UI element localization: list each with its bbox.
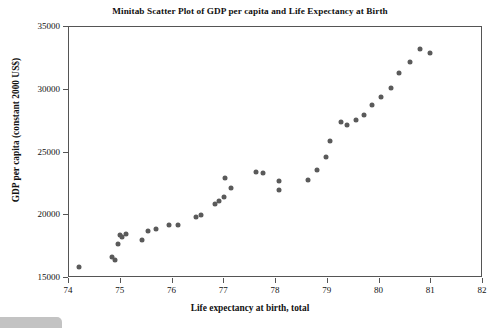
data-point [345, 122, 350, 127]
data-point [123, 232, 128, 237]
data-point [339, 120, 344, 125]
x-tick-mark [430, 278, 431, 283]
x-tick-mark [120, 278, 121, 283]
data-point [407, 59, 412, 64]
data-point [306, 178, 311, 183]
taskbar-nub [0, 317, 62, 328]
x-tick-label: 76 [152, 285, 192, 295]
x-tick-label: 82 [462, 285, 500, 295]
plot-area [68, 26, 482, 277]
x-tick-label: 75 [100, 285, 140, 295]
chart-title: Minitab Scatter Plot of GDP per capita a… [0, 6, 500, 16]
x-tick-mark [379, 278, 380, 283]
scatter-chart: Minitab Scatter Plot of GDP per capita a… [0, 0, 500, 328]
data-point [254, 169, 259, 174]
x-tick-mark [327, 278, 328, 283]
data-point [277, 187, 282, 192]
data-point [199, 213, 204, 218]
x-axis-title: Life expectancy at birth, total [0, 303, 500, 313]
data-point [140, 238, 145, 243]
x-tick-label: 78 [255, 285, 295, 295]
data-point [77, 264, 82, 269]
data-point [388, 86, 393, 91]
x-tick-mark [68, 278, 69, 283]
data-point [217, 198, 222, 203]
data-point [167, 223, 172, 228]
x-tick-label: 80 [359, 285, 399, 295]
data-point [112, 257, 117, 262]
data-point [361, 112, 366, 117]
y-tick-label: 15000 [14, 272, 60, 282]
data-point [327, 138, 332, 143]
data-point [145, 228, 150, 233]
x-tick-mark [482, 278, 483, 283]
x-tick-mark [223, 278, 224, 283]
x-tick-label: 81 [410, 285, 450, 295]
data-point [223, 176, 228, 181]
data-point [353, 117, 358, 122]
data-point [175, 222, 180, 227]
x-tick-label: 79 [307, 285, 347, 295]
data-point [229, 185, 234, 190]
data-point [397, 71, 402, 76]
x-tick-label: 77 [203, 285, 243, 295]
data-point [315, 168, 320, 173]
x-tick-mark [275, 278, 276, 283]
data-point [222, 195, 227, 200]
x-tick-mark [172, 278, 173, 283]
data-point [428, 51, 433, 56]
data-point [277, 179, 282, 184]
x-tick-label: 74 [48, 285, 88, 295]
data-point [370, 102, 375, 107]
data-point [323, 154, 328, 159]
data-point [417, 46, 422, 51]
y-axis-title: GDP per capita (constant 2000 US$) [11, 0, 21, 260]
data-point [153, 227, 158, 232]
data-point [378, 95, 383, 100]
data-point [115, 242, 120, 247]
data-point [260, 171, 265, 176]
